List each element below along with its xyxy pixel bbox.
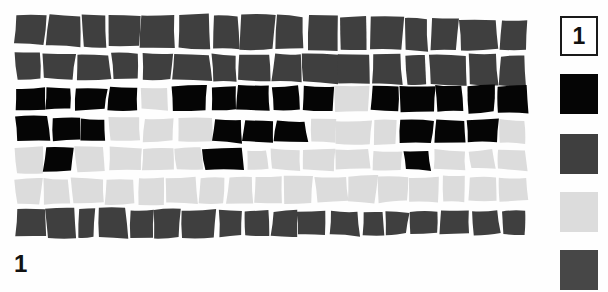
mosaic-tile: [42, 53, 76, 79]
mosaic-tile: [330, 211, 360, 237]
mosaic-tile: [303, 86, 334, 111]
mosaic-tile: [374, 120, 397, 145]
mosaic-tile: [247, 150, 268, 169]
mosaic-tile: [15, 146, 44, 173]
mosaic-tile: [107, 87, 137, 111]
mosaic-tile: [202, 148, 244, 170]
legend-item-dark-gray-2[interactable]: [560, 250, 598, 290]
mosaic-tile: [130, 210, 154, 238]
mosaic-tile: [338, 54, 370, 84]
figure-root: 1 1: [0, 0, 608, 292]
legend-number-box: 1: [560, 16, 598, 56]
mosaic-tile: [43, 178, 70, 205]
mosaic-tile: [111, 53, 138, 79]
mosaic-tile: [468, 177, 496, 201]
mosaic-tile: [15, 209, 46, 236]
mosaic-tile: [74, 146, 104, 172]
legend-column: 1: [560, 16, 604, 288]
mosaic-tile: [469, 54, 499, 86]
mosaic-tile: [14, 15, 47, 45]
mosaic-tile: [340, 16, 366, 50]
mosaic-svg: [0, 0, 540, 240]
legend-item-black[interactable]: [560, 74, 598, 114]
mosaic-tile: [431, 18, 459, 50]
mosaic-tile: [405, 55, 426, 85]
mosaic-tile: [78, 208, 95, 238]
mosaic-tile: [302, 53, 339, 84]
mosaic-tile: [15, 116, 50, 141]
mosaic-tile: [372, 54, 403, 85]
mosaic-tile: [109, 146, 142, 170]
mosaic-tile: [46, 14, 81, 47]
mosaic-tile: [52, 117, 80, 141]
mosaic-tile: [138, 178, 164, 206]
mosaic-tile: [212, 86, 236, 110]
mosaic-tile: [500, 20, 528, 50]
mosaic-tile: [311, 119, 336, 143]
mosaic-tile: [108, 117, 140, 141]
mosaic-tile: [435, 85, 463, 112]
figure-number-label: 1: [14, 250, 27, 278]
mosaic-tile: [271, 54, 301, 83]
mosaic-tile: [82, 15, 107, 48]
mosaic-tile: [335, 149, 370, 169]
mosaic-tile: [226, 177, 253, 204]
mosaic-tile: [439, 210, 469, 234]
mosaic-tile: [363, 212, 385, 236]
mosaic-tile: [399, 120, 434, 143]
mosaic-tile: [98, 207, 128, 238]
legend-swatch-light-gray: [560, 192, 598, 232]
mosaic-tile: [16, 87, 45, 110]
mosaic-tile: [109, 15, 141, 46]
legend-swatch-black: [560, 74, 598, 114]
mosaic-tile: [403, 151, 431, 171]
legend-swatch-dark-gray-2: [560, 250, 598, 290]
mosaic-tile: [348, 175, 378, 204]
mosaic-tile: [143, 118, 174, 142]
mosaic-tile: [275, 15, 303, 49]
mosaic-tile: [140, 15, 175, 48]
mosaic-tile: [15, 52, 41, 80]
mosaic-tile: [14, 178, 43, 205]
legend-number-label: 1: [573, 25, 586, 48]
mosaic-tile: [399, 86, 435, 112]
mosaic-tile: [142, 148, 174, 170]
mosaic-tile: [378, 176, 408, 203]
mosaic-tile: [172, 54, 212, 81]
mosaic-tile: [497, 85, 528, 113]
mosaic-tile: [154, 208, 181, 238]
mosaic-tile: [213, 15, 240, 49]
mosaic-tile: [178, 117, 212, 141]
mosaic-tile: [271, 149, 301, 171]
mosaic-tile: [212, 119, 242, 144]
mosaic-tile: [499, 55, 526, 87]
legend-item-light-gray[interactable]: [560, 192, 598, 232]
mosaic-tile: [80, 119, 105, 141]
mosaic-tile: [172, 85, 207, 111]
mosaic-tile: [181, 209, 216, 238]
legend-swatch-dark-gray: [560, 134, 598, 174]
mosaic-tile: [272, 85, 300, 110]
mosaic-tile: [239, 14, 275, 50]
mosaic-tile: [212, 54, 237, 82]
mosaic-tile: [409, 177, 439, 203]
mosaic-tile: [43, 147, 74, 172]
legend-item-number[interactable]: 1: [560, 16, 598, 56]
mosaic-tile: [238, 55, 270, 82]
mosaic-tile: [370, 16, 404, 49]
legend-item-dark-gray[interactable]: [560, 134, 598, 174]
mosaic-tile: [199, 177, 225, 204]
mosaic-tile: [297, 211, 326, 235]
mosaic-tile: [174, 147, 203, 170]
mosaic-tile: [236, 85, 270, 111]
mosaic-tile: [105, 179, 135, 205]
mosaic-tile: [502, 210, 525, 235]
mosaic-tile: [284, 176, 313, 204]
mosaic-tile: [245, 210, 270, 236]
mosaic-tile: [141, 88, 168, 111]
mosaic-tile: [166, 177, 198, 204]
mosaic-tile: [336, 121, 373, 145]
mosaic-tile: [434, 149, 465, 170]
mosaic-tile: [429, 55, 467, 86]
mosaic-tile: [314, 177, 348, 202]
